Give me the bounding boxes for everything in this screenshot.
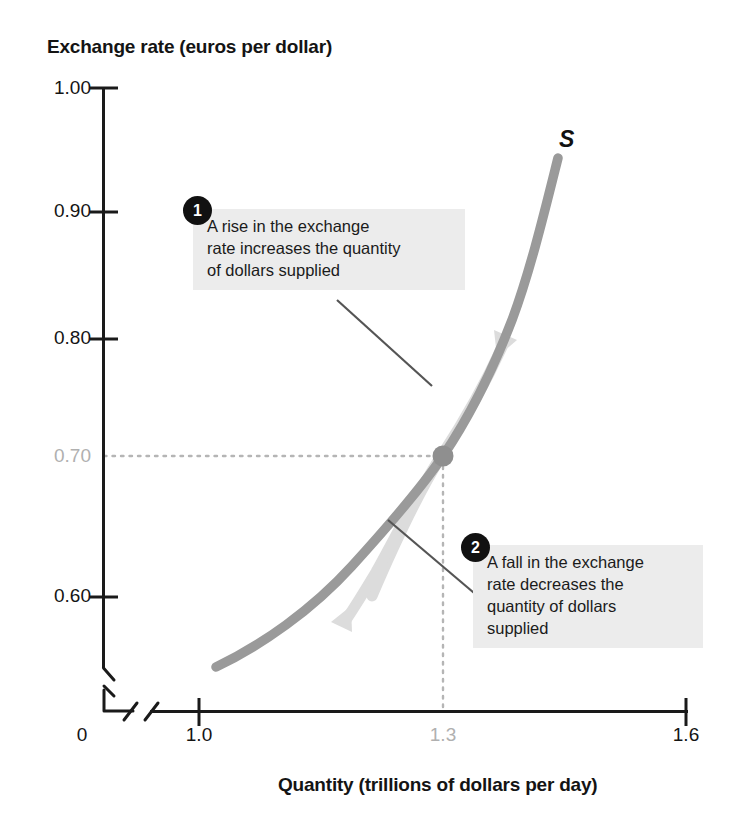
callout-1-leader-line: [337, 300, 432, 386]
annotation-badge-2: 2: [461, 533, 490, 562]
annotation-2-line-1: A fall in the exchange: [487, 552, 693, 574]
annotation-2-line-2: rate decreases the: [487, 574, 693, 596]
annotation-2-line-4: supplied: [487, 618, 693, 640]
annotation-2-line-3: quantity of dollars: [487, 596, 693, 618]
annotation-1-line-2: rate increases the quantity: [207, 238, 455, 260]
annotation-1-line-3: of dollars supplied: [207, 260, 455, 282]
annotation-1-line-1: A rise in the exchange: [207, 216, 455, 238]
supply-curve-chart: Exchange rate (euros per dollar) Quantit…: [0, 0, 741, 821]
supply-curve-label: S: [559, 126, 574, 153]
equilibrium-point-marker: [433, 446, 454, 467]
axis-origin-corner: [104, 690, 133, 711]
chart-graphics-layer: [0, 0, 741, 821]
annotation-badge-1: 1: [183, 196, 212, 225]
annotation-callout-1: A rise in the exchange rate increases th…: [193, 209, 465, 290]
annotation-callout-2: A fall in the exchange rate decreases th…: [473, 545, 703, 648]
